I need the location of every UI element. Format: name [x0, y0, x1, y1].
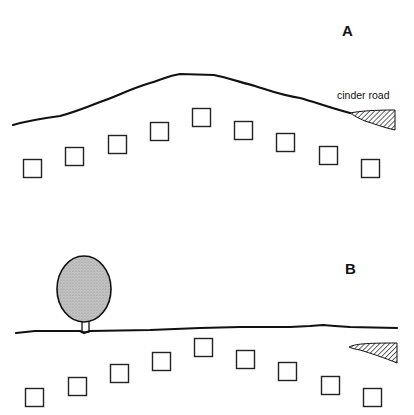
hill-profile-line [13, 74, 350, 125]
grave-square-icon [111, 365, 129, 383]
panel-b [16, 256, 397, 407]
grave-square-icon [66, 148, 84, 166]
grave-square-icon [24, 160, 42, 178]
grave-square-icon [279, 363, 297, 381]
grave-square-icon [322, 377, 340, 395]
monitoring-squares-b [26, 339, 382, 407]
panel-label-b: B [345, 261, 356, 276]
grave-square-icon [193, 109, 211, 127]
grave-square-icon [364, 389, 382, 407]
grave-square-icon [235, 122, 253, 140]
grave-square-icon [362, 160, 380, 178]
diagram-canvas: A cinder road B [0, 0, 414, 415]
grave-square-icon [151, 123, 169, 141]
flat-ground-line [16, 325, 397, 333]
grave-square-icon [153, 353, 171, 371]
grave-square-icon [26, 389, 44, 407]
grave-square-icon [109, 136, 127, 154]
panel-label-a: A [342, 23, 353, 38]
diagram-drawing [0, 0, 414, 415]
grave-square-icon [237, 351, 255, 369]
cinder-road-label: cinder road [337, 90, 390, 101]
grave-square-icon [195, 339, 213, 357]
cinder-road-hatch [350, 110, 395, 130]
monitoring-squares-a [24, 109, 380, 178]
tree-crown-icon [57, 256, 111, 322]
grave-square-icon [69, 378, 87, 396]
grave-square-icon [277, 134, 295, 152]
grave-square-icon [320, 147, 338, 165]
road-hatch-b [349, 343, 397, 363]
